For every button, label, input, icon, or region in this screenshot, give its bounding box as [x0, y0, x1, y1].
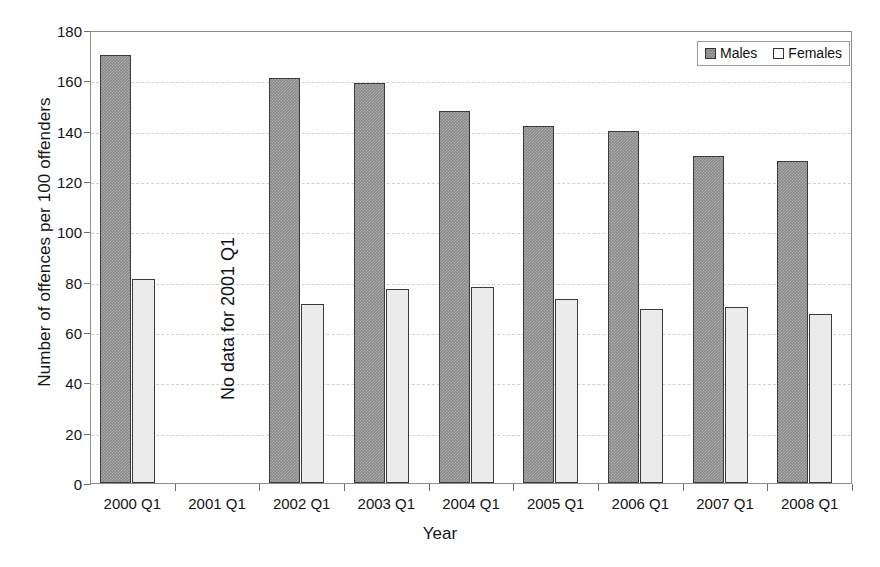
x-tick-mark — [852, 484, 853, 491]
legend-item-females[interactable]: Females — [773, 45, 842, 61]
bar-group — [91, 32, 176, 483]
bar-group — [768, 32, 853, 483]
bar-males[interactable] — [693, 156, 724, 483]
y-tick-label: 160 — [22, 73, 82, 90]
y-tick-label: 180 — [22, 23, 82, 40]
bar-males[interactable] — [354, 83, 385, 483]
bar-females[interactable] — [725, 307, 748, 483]
bar-males[interactable] — [269, 78, 300, 483]
y-tick-label: 140 — [22, 123, 82, 140]
x-tick-mark — [513, 484, 514, 491]
x-tick-mark — [259, 484, 260, 491]
legend-label-males: Males — [720, 45, 757, 61]
x-axis-title: Year — [0, 524, 880, 544]
x-tick-label: 2008 Q1 — [750, 495, 870, 512]
legend-item-males[interactable]: Males — [705, 45, 757, 61]
bar-females[interactable] — [555, 299, 578, 483]
males-swatch-icon — [705, 48, 716, 59]
x-tick-mark — [429, 484, 430, 491]
bar-group — [599, 32, 684, 483]
x-tick-mark — [344, 484, 345, 491]
legend: Males Females — [697, 41, 850, 66]
bar-group — [684, 32, 769, 483]
bar-males[interactable] — [777, 161, 808, 483]
y-tick-mark — [84, 484, 91, 485]
bar-females[interactable] — [386, 289, 409, 483]
bar-males[interactable] — [100, 55, 131, 483]
females-swatch-icon — [773, 48, 784, 59]
bar-group — [514, 32, 599, 483]
bar-females[interactable] — [301, 304, 324, 483]
plot-area — [90, 31, 852, 484]
y-tick-label: 20 — [22, 425, 82, 442]
y-tick-label: 0 — [22, 476, 82, 493]
legend-label-females: Females — [788, 45, 842, 61]
no-data-annotation: No data for 2001 Q1 — [218, 189, 239, 449]
x-tick-mark — [598, 484, 599, 491]
x-tick-mark — [683, 484, 684, 491]
bar-group — [345, 32, 430, 483]
bar-group — [260, 32, 345, 483]
bar-females[interactable] — [640, 309, 663, 483]
y-tick-label: 40 — [22, 375, 82, 392]
x-tick-mark — [767, 484, 768, 491]
bar-males[interactable] — [439, 111, 470, 483]
bar-females[interactable] — [471, 287, 494, 483]
y-tick-label: 100 — [22, 224, 82, 241]
bar-males[interactable] — [608, 131, 639, 483]
y-tick-label: 60 — [22, 325, 82, 342]
y-tick-label: 80 — [22, 274, 82, 291]
bar-males[interactable] — [523, 126, 554, 483]
x-tick-mark — [175, 484, 176, 491]
bar-group — [430, 32, 515, 483]
bar-females[interactable] — [132, 279, 155, 483]
bar-females[interactable] — [809, 314, 832, 483]
y-tick-label: 120 — [22, 174, 82, 191]
bar-chart: Number of offences per 100 offenders 020… — [0, 0, 880, 567]
